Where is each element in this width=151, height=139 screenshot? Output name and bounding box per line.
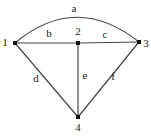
edge-label-b: b: [46, 27, 52, 39]
node-label-3: 3: [143, 37, 149, 49]
graph-svg: abcdef1234: [0, 0, 151, 139]
node-label-2: 2: [75, 25, 81, 37]
node-label-4: 4: [75, 121, 81, 133]
edge-label-e: e: [83, 69, 88, 81]
edge-label-d: d: [33, 72, 39, 84]
node-3: [137, 40, 141, 44]
node-4: [76, 115, 80, 119]
edge-label-f: f: [111, 70, 115, 82]
graph-diagram: abcdef1234: [0, 0, 151, 139]
node-2: [76, 41, 80, 45]
edge-d: [15, 43, 78, 117]
edge-c: [78, 42, 139, 43]
edge-label-c: c: [103, 28, 108, 40]
node-1: [13, 41, 17, 45]
node-label-1: 1: [2, 36, 8, 48]
edge-label-a: a: [72, 2, 77, 14]
